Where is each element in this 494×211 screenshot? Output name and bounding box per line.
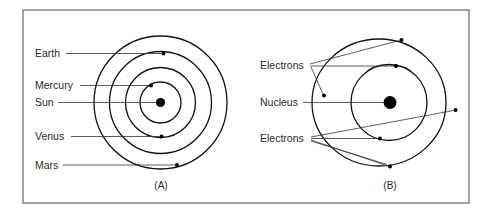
caption-b: (B) [383, 180, 396, 191]
caption-a: (A) [154, 180, 167, 191]
venus-planet-icon [160, 135, 164, 139]
electron-icon [454, 108, 458, 112]
atom-solar-system-comparison-figure: Earth Mercury Sun Venus Mars (A) Electro… [0, 0, 494, 211]
electron-icon [400, 38, 404, 42]
label-mercury: Mercury [35, 79, 74, 91]
electrons-top-leader-line [310, 41, 400, 65]
electron-icon [394, 64, 398, 68]
label-electrons-top: Electrons [260, 59, 304, 71]
electron-icon [388, 165, 392, 169]
mercury-planet-icon [149, 84, 153, 88]
label-electrons-bottom: Electrons [260, 132, 304, 144]
panel-a-solar-system: Earth Mercury Sun Venus Mars (A) [35, 36, 227, 191]
sun-icon [156, 98, 165, 107]
electron-icon [322, 94, 326, 98]
label-mars: Mars [35, 159, 58, 171]
electrons-bottom-leader-line [311, 141, 387, 165]
earth-planet-icon [162, 52, 166, 56]
label-nucleus: Nucleus [260, 96, 298, 108]
label-venus: Venus [35, 130, 64, 142]
panel-b-atom: Electrons Nucleus Electrons (B) [260, 38, 458, 191]
label-earth: Earth [35, 47, 60, 59]
nucleus-icon [384, 96, 397, 109]
mars-planet-icon [175, 163, 179, 167]
label-sun: Sun [35, 96, 54, 108]
electron-icon [378, 137, 382, 141]
electrons-bottom-leader-line [311, 111, 454, 138]
